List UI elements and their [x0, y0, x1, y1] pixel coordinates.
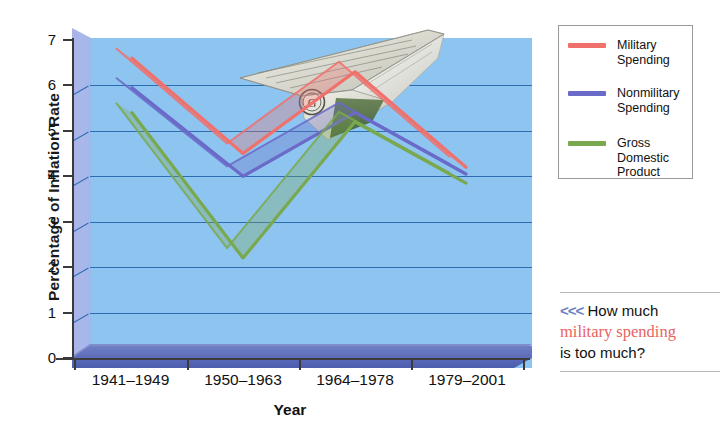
y-tick: [63, 39, 72, 41]
y-tick: [63, 266, 72, 268]
x-tick: [523, 360, 525, 370]
y-tick: [63, 84, 72, 86]
series-lines: [72, 28, 532, 368]
legend-label-line: Military: [617, 38, 670, 53]
legend-label-line: Spending: [617, 101, 680, 116]
y-axis-line: [72, 38, 74, 360]
legend-item[interactable]: GrossDomesticProduct: [568, 136, 669, 180]
y-tick-label: 2: [30, 259, 56, 274]
legend-label-line: Product: [617, 165, 669, 180]
y-tick: [63, 312, 72, 314]
x-tick-label: 1979–2001: [407, 371, 527, 389]
y-tick-label: 5: [30, 123, 56, 138]
y-tick-label: 3: [30, 214, 56, 229]
y-tick: [63, 130, 72, 132]
plot-area: G: [72, 28, 532, 362]
x-tick-label: 1941–1949: [71, 371, 191, 389]
x-axis-line: [56, 358, 530, 360]
legend-label: GrossDomesticProduct: [617, 136, 669, 180]
y-tick-label: 7: [30, 32, 56, 47]
legend-item[interactable]: MilitarySpending: [568, 38, 670, 67]
x-tick: [74, 360, 76, 370]
y-tick-label: 4: [30, 168, 56, 183]
legend-swatch: [568, 43, 606, 48]
x-tick: [187, 360, 189, 370]
y-tick: [63, 175, 72, 177]
chart-legend: MilitarySpendingNonmilitarySpendingGross…: [558, 25, 693, 179]
x-tick-label: 1950–1963: [183, 371, 303, 389]
callout-chevrons: <<<: [560, 302, 583, 319]
legend-swatch: [568, 141, 606, 146]
y-tick: [63, 221, 72, 223]
legend-label: MilitarySpending: [617, 38, 670, 67]
chart-figure: Percentage of Inflation Rate 76543210: [0, 0, 725, 431]
x-tick: [411, 360, 413, 370]
legend-label: NonmilitarySpending: [617, 86, 680, 115]
callout-line-2: military spending: [560, 321, 720, 342]
legend-label-line: Spending: [617, 53, 670, 68]
y-tick-label: 0: [30, 350, 56, 365]
y-tick-label: 6: [30, 77, 56, 92]
series-line[interactable]: [132, 58, 466, 167]
legend-label-line: Nonmilitary: [617, 86, 680, 101]
callout-line-1: <<< How much: [560, 300, 720, 321]
legend-swatch: [568, 91, 606, 96]
callout-line-3: is too much?: [560, 342, 720, 363]
legend-label-line: Domestic: [617, 151, 669, 166]
legend-label-line: Gross: [617, 136, 669, 151]
y-tick-label: 1: [30, 305, 56, 320]
callout-text-1: How much: [587, 302, 658, 319]
legend-item[interactable]: NonmilitarySpending: [568, 86, 680, 115]
x-axis-title: Year: [160, 401, 420, 419]
callout-box: <<< How much military spending is too mu…: [560, 292, 720, 372]
x-tick: [299, 360, 301, 370]
x-tick-label: 1964–1978: [295, 371, 415, 389]
